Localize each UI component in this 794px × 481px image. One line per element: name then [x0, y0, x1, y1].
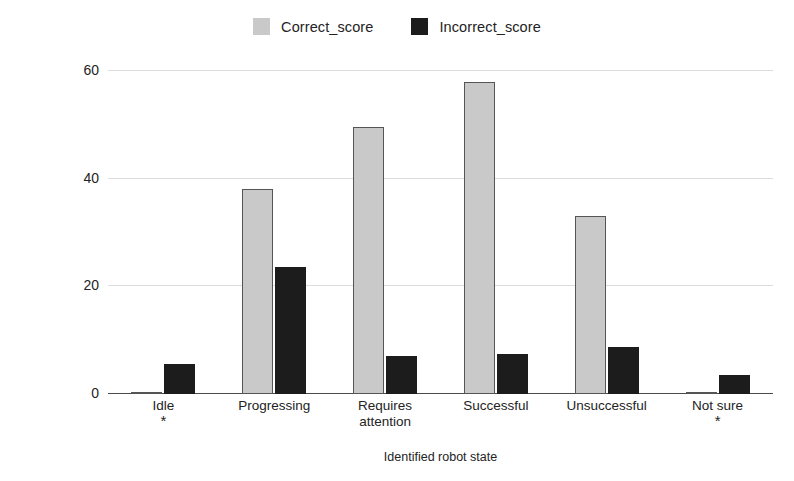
x-tick-label: Not sure* — [662, 398, 773, 430]
legend-label-incorrect-score: Incorrect_score — [439, 19, 540, 35]
x-tick-label-text: Requires — [330, 398, 441, 414]
bar — [242, 189, 273, 394]
legend-item-incorrect-score: Incorrect_score — [411, 18, 540, 35]
bar — [497, 354, 528, 394]
legend-swatch-correct-icon — [253, 18, 270, 35]
x-tick-label-text: attention — [330, 414, 441, 430]
x-tick-label-text: Unsuccessful — [551, 398, 662, 414]
plot-area: 0204060 — [108, 60, 773, 394]
y-tick-label-0: 0 — [91, 385, 99, 401]
x-tick-label: Successful — [440, 398, 551, 430]
bar-group — [330, 60, 441, 394]
bar — [608, 347, 639, 394]
x-tick-label: Progressing — [219, 398, 330, 430]
bar — [686, 392, 717, 394]
chart-legend: Correct_score Incorrect_score — [0, 18, 794, 35]
bar — [719, 375, 750, 394]
x-tick-label: Idle* — [108, 398, 219, 430]
bar-group — [219, 60, 330, 394]
x-tick-label: Requiresattention — [330, 398, 441, 430]
bar-groups — [108, 60, 773, 394]
x-tick-label-text: Successful — [440, 398, 551, 414]
bar-group — [108, 60, 219, 394]
y-tick-label-40: 40 — [83, 170, 99, 186]
bar — [131, 392, 162, 394]
legend-swatch-incorrect-icon — [411, 18, 428, 35]
x-axis-tick-labels: Idle*ProgressingRequiresattentionSuccess… — [108, 398, 773, 430]
x-tick-label-text: Progressing — [219, 398, 330, 414]
y-tick-label-60: 60 — [83, 62, 99, 78]
bar-chart-figure: Correct_score Incorrect_score Selection … — [0, 0, 794, 481]
legend-item-correct-score: Correct_score — [253, 18, 373, 35]
x-tick-label: Unsuccessful — [551, 398, 662, 430]
x-tick-asterisk-marker: * — [108, 414, 219, 427]
bar — [386, 356, 417, 394]
bar-group — [440, 60, 551, 394]
bar-group — [551, 60, 662, 394]
bar — [164, 364, 195, 394]
bar — [353, 127, 384, 394]
bar-group — [662, 60, 773, 394]
legend-label-correct-score: Correct_score — [281, 19, 373, 35]
bar — [275, 267, 306, 394]
bar — [575, 216, 606, 394]
x-axis-title: Identified robot state — [108, 450, 773, 464]
bar — [464, 82, 495, 394]
y-tick-label-20: 20 — [83, 277, 99, 293]
x-tick-asterisk-marker: * — [662, 414, 773, 427]
